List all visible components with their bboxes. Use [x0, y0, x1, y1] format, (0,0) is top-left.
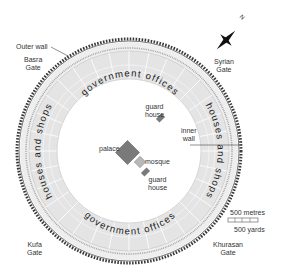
inner-wall-line1: inner — [181, 127, 197, 135]
compass-rose-icon — [211, 25, 241, 55]
guard-house-south-line2: house — [148, 184, 167, 192]
palace-label: palace — [99, 145, 120, 153]
basra-gate-line1: Basra — [24, 56, 42, 64]
mosque-label: mosque — [145, 158, 170, 166]
round-city-map: government offices government offices ho… — [0, 0, 282, 278]
guard-house-north-label: guard house — [145, 103, 164, 119]
khurasan-gate-line2: Gate — [213, 249, 243, 257]
basra-gate-label: Basra Gate — [24, 56, 42, 72]
syrian-gate-line2: Gate — [214, 66, 234, 74]
outer-wall-label: Outer wall — [16, 43, 48, 51]
basra-gate-line2: Gate — [24, 64, 42, 72]
inner-wall-line2: wall — [181, 135, 197, 143]
khurasan-gate-label: Khurasan Gate — [213, 241, 243, 257]
kufa-gate-line2: Gate — [27, 249, 42, 257]
kufa-gate-label: Kufa Gate — [27, 241, 42, 257]
khurasan-gate-line1: Khurasan — [213, 241, 243, 249]
scale-yards-label: 500 yards — [234, 226, 265, 234]
syrian-gate-label: Syrian Gate — [214, 58, 234, 74]
syrian-gate-line1: Syrian — [214, 58, 234, 66]
guard-house-north-line2: house — [145, 111, 164, 119]
guard-house-north-line1: guard — [145, 103, 164, 111]
inner-wall-label: inner wall — [181, 127, 197, 143]
scale-metres-label: 500 metres — [230, 209, 265, 217]
outer-wall-leader — [51, 47, 68, 56]
guard-house-south-label: guard house — [148, 176, 167, 192]
kufa-gate-line1: Kufa — [27, 241, 42, 249]
guard-house-south-line1: guard — [148, 176, 167, 184]
scale-bar — [228, 218, 258, 222]
